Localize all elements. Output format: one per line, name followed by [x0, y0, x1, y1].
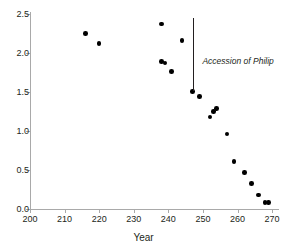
x-tick-label: 240 [153, 215, 183, 224]
y-tick-label: 2.5 [5, 10, 29, 19]
y-tick-label: 1.0 [5, 127, 29, 136]
accession-marker-label: Accession of Philip [202, 57, 273, 66]
x-axis-title: Year [0, 232, 287, 243]
data-point [180, 38, 185, 43]
data-point [197, 94, 202, 99]
scatter-chart: 0.00.51.01.52.02.5 200210220230240250260… [0, 0, 287, 251]
x-tick-label: 200 [15, 215, 45, 224]
y-tick-label: 0.5 [5, 166, 29, 175]
data-point [163, 61, 168, 66]
y-axis-line [30, 12, 31, 210]
data-point [214, 106, 219, 111]
x-tick-label: 250 [188, 215, 218, 224]
x-tick-mark [65, 209, 66, 213]
x-tick-mark [168, 209, 169, 213]
data-point [208, 115, 213, 120]
data-point [266, 200, 271, 205]
x-tick-label: 230 [119, 215, 149, 224]
data-point [242, 170, 247, 175]
x-tick-label: 210 [50, 215, 80, 224]
x-tick-mark [272, 209, 273, 213]
data-point [169, 69, 174, 74]
x-axis-line [30, 209, 279, 210]
y-tick-label: 2.0 [5, 49, 29, 58]
data-point [97, 41, 102, 46]
x-tick-mark [238, 209, 239, 213]
data-point [83, 31, 88, 36]
x-tick-mark [203, 209, 204, 213]
x-tick-mark [30, 209, 31, 213]
data-point [225, 132, 230, 137]
x-tick-label: 270 [257, 215, 287, 224]
y-tick-label: 1.5 [5, 88, 29, 97]
x-tick-mark [99, 209, 100, 213]
data-point [256, 193, 261, 198]
x-tick-label: 220 [84, 215, 114, 224]
accession-marker-line [193, 18, 194, 91]
x-tick-mark [134, 209, 135, 213]
data-point [159, 22, 164, 27]
y-tick-label: 0.0 [5, 205, 29, 214]
data-point [249, 181, 254, 186]
x-tick-label: 260 [223, 215, 253, 224]
data-point [232, 159, 237, 164]
